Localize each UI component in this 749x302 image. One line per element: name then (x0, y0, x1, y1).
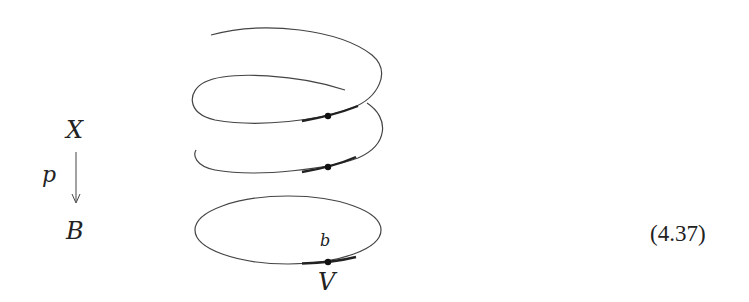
label-b: b (320, 233, 330, 249)
label-B: B (66, 219, 84, 243)
diagram-svg (0, 0, 749, 302)
equation-number: (4.37) (650, 222, 706, 245)
helix-lower-turn (195, 103, 383, 173)
lift-point-upper (325, 113, 331, 119)
label-V: V (318, 270, 335, 294)
covering-diagram: X p B b V (4.37) (0, 0, 749, 302)
base-circle (195, 196, 381, 264)
basepoint-b (325, 259, 331, 265)
label-X: X (66, 118, 83, 142)
sheet-upper (302, 106, 358, 121)
label-p: p (42, 164, 56, 186)
lift-point-lower (325, 164, 331, 170)
projection-arrow (72, 152, 80, 203)
